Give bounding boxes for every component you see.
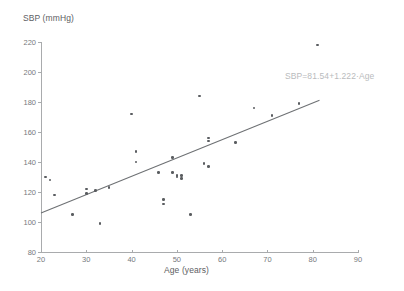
data-point xyxy=(207,137,210,140)
regression-equation-label: SBP=81.54+1.222·Age xyxy=(285,71,374,81)
regression-line xyxy=(0,0,404,291)
data-point xyxy=(271,114,274,117)
data-point xyxy=(171,156,174,159)
scatter-chart: SBP (mmHg) 22020018016014012010080 20304… xyxy=(0,0,404,291)
data-point xyxy=(157,171,160,174)
data-point xyxy=(207,140,210,143)
data-point xyxy=(99,222,102,225)
data-point xyxy=(85,192,88,195)
data-point xyxy=(162,203,165,206)
data-point xyxy=(108,186,111,189)
data-point xyxy=(316,44,319,47)
data-point xyxy=(71,213,74,216)
data-point xyxy=(180,177,183,180)
data-point xyxy=(162,198,165,201)
x-axis-title: Age (years) xyxy=(164,265,209,275)
data-point xyxy=(171,171,174,174)
data-point xyxy=(85,188,88,191)
data-point xyxy=(94,189,97,192)
data-point xyxy=(189,213,192,216)
data-point xyxy=(207,165,210,168)
data-point xyxy=(234,141,237,144)
